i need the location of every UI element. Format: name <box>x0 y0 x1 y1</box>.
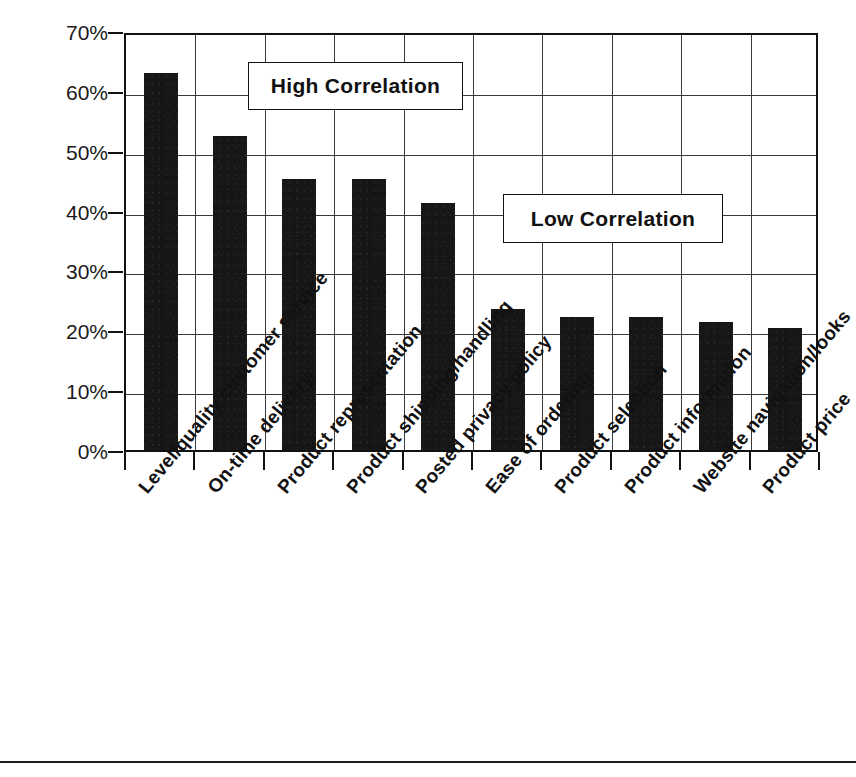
y-axis-tick-mark <box>108 32 123 34</box>
y-axis-tick-mark <box>108 212 123 214</box>
bottom-rule <box>0 761 856 763</box>
x-axis-tick-mark <box>610 452 612 470</box>
x-axis-tick-mark <box>749 452 751 470</box>
bar <box>491 309 525 450</box>
y-axis-tick-mark <box>108 391 123 393</box>
y-axis-tick-label: 0% <box>78 440 108 464</box>
annotation-low-correlation: Low Correlation <box>503 194 723 243</box>
y-axis-tick-mark <box>108 451 123 453</box>
y-axis-tick-label: 50% <box>66 141 108 165</box>
gridline-horizontal <box>126 95 816 96</box>
x-axis-tick-mark <box>402 452 404 470</box>
x-axis-tick-mark <box>263 452 265 470</box>
bar <box>560 317 594 450</box>
bar <box>352 179 386 450</box>
bar <box>213 136 247 450</box>
y-axis-tick-label: 40% <box>66 201 108 225</box>
y-axis-tick-mark <box>108 271 123 273</box>
y-axis-tick-mark <box>108 92 123 94</box>
x-axis-tick-mark <box>193 452 195 470</box>
bar <box>144 73 178 450</box>
bar <box>629 317 663 450</box>
x-axis-tick-mark <box>818 452 820 470</box>
x-axis-tick-mark <box>679 452 681 470</box>
y-axis-tick-mark <box>108 331 123 333</box>
chart-figure: 70%60%50%40%30%20%10%0% Level/quality cu… <box>0 0 856 777</box>
y-axis-tick-label: 10% <box>66 380 108 404</box>
bar <box>699 322 733 450</box>
y-axis: 70%60%50%40%30%20%10%0% <box>0 33 108 452</box>
x-axis-tick-mark <box>332 452 334 470</box>
gridline-vertical <box>751 35 752 450</box>
gridline-vertical <box>195 35 196 450</box>
bar <box>768 328 802 450</box>
x-axis-tick-mark <box>471 452 473 470</box>
gridline-vertical <box>473 35 474 450</box>
bar <box>421 203 455 450</box>
bar <box>282 179 316 450</box>
y-axis-tick-label: 60% <box>66 81 108 105</box>
y-axis-tick-label: 70% <box>66 21 108 45</box>
y-axis-tick-label: 30% <box>66 260 108 284</box>
y-axis-tick-mark <box>108 152 123 154</box>
y-axis-tick-label: 20% <box>66 320 108 344</box>
x-axis-tick-mark <box>540 452 542 470</box>
x-axis-tick-mark <box>124 452 126 470</box>
annotation-high-correlation: High Correlation <box>248 62 463 110</box>
